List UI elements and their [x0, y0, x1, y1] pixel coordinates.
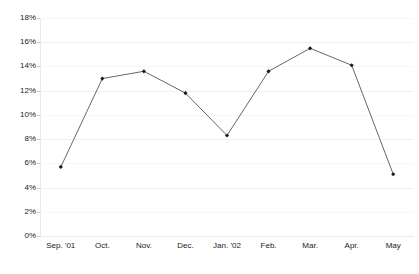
y-axis-tick-mark	[37, 139, 40, 140]
x-axis-tick-label: Mar.	[302, 241, 318, 250]
y-axis-tick-mark	[37, 91, 40, 92]
x-axis-tick-label: Apr.	[345, 241, 359, 250]
x-axis-tick-label: Jan. '02	[213, 241, 241, 250]
y-axis-tick-mark	[37, 66, 40, 67]
y-axis-tick-mark	[37, 212, 40, 213]
data-point-marker	[350, 63, 354, 67]
y-axis-tick-mark	[37, 188, 40, 189]
data-point-marker	[100, 76, 104, 80]
y-axis-tick-mark	[37, 42, 40, 43]
x-axis-tick-label: Nov.	[136, 241, 152, 250]
x-axis-tick-label: Feb.	[261, 241, 277, 250]
series-line	[61, 48, 393, 174]
series-layer	[0, 0, 419, 274]
x-axis-tick-label: May	[386, 241, 401, 250]
y-axis-tick-mark	[37, 236, 40, 237]
y-axis-tick-mark	[37, 115, 40, 116]
y-axis-tick-mark	[37, 163, 40, 164]
data-point-marker	[59, 165, 63, 169]
x-axis-tick-label: Dec.	[177, 241, 193, 250]
data-point-marker	[391, 172, 395, 176]
line-chart: 0%2%4%6%8%10%12%14%16%18% Sep. '01Oct.No…	[0, 0, 419, 274]
x-axis-tick-label: Oct.	[95, 241, 110, 250]
y-axis-tick-mark	[37, 18, 40, 19]
data-point-marker	[142, 69, 146, 73]
data-point-marker	[308, 46, 312, 50]
x-axis-tick-label: Sep. '01	[46, 241, 75, 250]
series-markers	[59, 46, 396, 176]
